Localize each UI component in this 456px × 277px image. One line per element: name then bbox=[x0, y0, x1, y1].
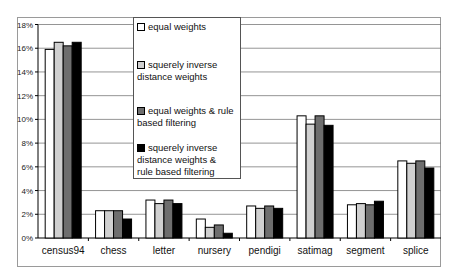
bar bbox=[256, 208, 265, 238]
legend-item-inverse-rule-filter: squerely inverse distance weights & rule… bbox=[137, 142, 239, 178]
legend-label: distance weights bbox=[137, 71, 207, 82]
bar bbox=[63, 46, 72, 238]
bar bbox=[146, 200, 155, 238]
bar bbox=[306, 124, 315, 238]
bar bbox=[324, 125, 333, 238]
legend-item-equal-weights: equal weights bbox=[137, 21, 239, 33]
y-tick-label: 4% bbox=[21, 187, 33, 196]
y-tick-label: 0% bbox=[21, 234, 33, 243]
bar bbox=[365, 205, 374, 238]
legend-label: distance weights & bbox=[137, 154, 216, 165]
bar bbox=[398, 161, 407, 238]
bar bbox=[315, 116, 324, 238]
bar bbox=[105, 211, 114, 238]
legend-swatch-icon bbox=[137, 23, 145, 31]
legend-swatch-icon bbox=[137, 144, 145, 152]
y-tick-label: 14% bbox=[17, 68, 33, 77]
legend: equal weights squerely inverse distance … bbox=[133, 17, 241, 179]
legend-item-inverse-distance: squerely inverse distance weights bbox=[137, 59, 239, 83]
bar bbox=[164, 200, 173, 238]
legend-label: based filtering bbox=[137, 117, 196, 128]
bar bbox=[223, 233, 232, 238]
bar bbox=[96, 211, 105, 238]
x-tick-label: letter bbox=[153, 245, 176, 256]
bar bbox=[72, 42, 81, 238]
bar bbox=[356, 204, 365, 238]
bar bbox=[155, 204, 164, 238]
legend-label: rule based filtering bbox=[137, 166, 215, 177]
bar bbox=[205, 227, 214, 238]
legend-label: equal weights & rule bbox=[148, 105, 234, 116]
bar bbox=[196, 219, 205, 238]
y-tick-label: 10% bbox=[17, 115, 33, 124]
legend-label: equal weights bbox=[148, 21, 206, 32]
bar bbox=[416, 161, 425, 238]
y-tick-label: 6% bbox=[21, 163, 33, 172]
bar bbox=[407, 163, 416, 238]
bar bbox=[45, 49, 54, 238]
bar bbox=[173, 204, 182, 238]
bar bbox=[374, 201, 383, 238]
x-tick-label: satimag bbox=[298, 245, 333, 256]
x-tick-label: pendigi bbox=[249, 245, 281, 256]
y-tick-label: 12% bbox=[17, 92, 33, 101]
legend-swatch-icon bbox=[137, 61, 145, 69]
x-tick-label: nursery bbox=[198, 245, 231, 256]
y-tick-label: 16% bbox=[17, 44, 33, 53]
bar bbox=[54, 42, 63, 238]
bar bbox=[247, 206, 256, 238]
y-tick-label: 2% bbox=[21, 210, 33, 219]
bar bbox=[265, 206, 274, 238]
legend-swatch-icon bbox=[137, 107, 145, 115]
y-tick-label: 18% bbox=[17, 21, 33, 30]
bar bbox=[297, 116, 306, 238]
x-tick-label: chess bbox=[101, 245, 127, 256]
legend-label: squerely inverse bbox=[148, 142, 217, 153]
x-tick-label: segment bbox=[346, 245, 385, 256]
x-tick-label: splice bbox=[403, 245, 429, 256]
y-tick-label: 8% bbox=[21, 139, 33, 148]
bar bbox=[425, 168, 434, 238]
bar bbox=[114, 211, 123, 238]
bar bbox=[274, 208, 283, 238]
bar bbox=[347, 205, 356, 238]
legend-item-equal-rule-filter: equal weights & rule based filtering bbox=[137, 105, 239, 129]
bar bbox=[123, 219, 132, 238]
bar bbox=[214, 225, 223, 238]
legend-label: squerely inverse bbox=[148, 59, 217, 70]
x-tick-label: census94 bbox=[42, 245, 85, 256]
